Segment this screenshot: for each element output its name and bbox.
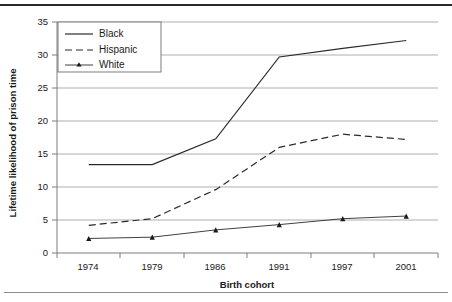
y-tick-label-10: 10 [37,181,48,192]
y-tick-label-35: 35 [37,16,48,27]
x-axis-title: Birth cohort [220,279,275,290]
y-tick-label-15: 15 [37,148,48,159]
chart-area: Lifetime likelihood of prison time 35 30… [0,8,452,290]
x-tick-label-1979: 1979 [141,261,162,272]
line-chart: Lifetime likelihood of prison time 35 30… [0,8,452,290]
y-tick-label-30: 30 [37,49,48,60]
x-tick-label-1991: 1991 [268,261,289,272]
y-tick-label-5: 5 [43,214,48,225]
y-tick-label-25: 25 [37,82,48,93]
series-line-hispanic [89,134,407,225]
y-tick-label-20: 20 [37,115,48,126]
legend-label-black: Black [99,28,124,39]
series-line-white [89,216,407,238]
x-tick-label-1997: 1997 [331,261,352,272]
top-divider-rule [0,4,452,6]
legend-label-hispanic: Hispanic [99,44,137,55]
figure-container: Lifetime likelihood of prison time 35 30… [0,0,452,302]
bottom-divider-rule [4,292,448,293]
x-tick-label-1974: 1974 [77,261,98,272]
y-axis-title: Lifetime likelihood of prison time [7,69,18,218]
legend-label-white: White [99,59,125,70]
x-tick-label-1986: 1986 [204,261,225,272]
y-tick-label-0: 0 [43,247,48,258]
x-tick-label-2001: 2001 [395,261,416,272]
